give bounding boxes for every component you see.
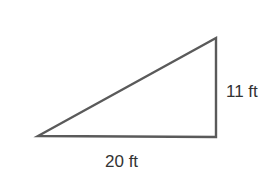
height-label: 11 ft (226, 82, 258, 101)
right-triangle (38, 38, 216, 137)
triangle-diagram: 11 ft 20 ft (0, 0, 272, 187)
base-label: 20 ft (105, 152, 138, 171)
